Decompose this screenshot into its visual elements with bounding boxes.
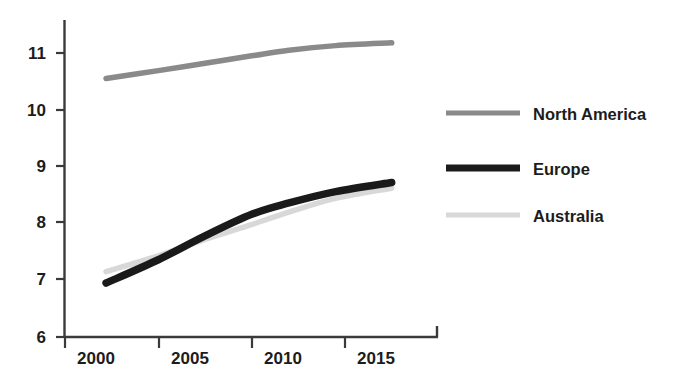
legend-label: Australia bbox=[533, 207, 604, 225]
x-tick-label: 2015 bbox=[357, 349, 395, 368]
y-tick-label: 6 bbox=[37, 328, 46, 347]
legend-item-australia[interactable]: Australia bbox=[446, 207, 604, 225]
axis-group bbox=[65, 20, 439, 337]
x-tick-label: 2005 bbox=[171, 349, 209, 368]
y-tick-labels: 11 10 9 8 7 6 bbox=[27, 44, 46, 347]
chart-canvas: 11 10 9 8 7 6 2000 2005 2010 2015 bbox=[0, 0, 691, 392]
legend: North America Europe Australia bbox=[446, 105, 647, 225]
series-line-australia bbox=[106, 188, 392, 272]
legend-label: Europe bbox=[533, 160, 590, 178]
y-tick-label: 8 bbox=[37, 213, 46, 232]
legend-item-north-america[interactable]: North America bbox=[446, 105, 647, 123]
line-chart: 11 10 9 8 7 6 2000 2005 2010 2015 bbox=[0, 0, 691, 392]
x-tick-label: 2010 bbox=[264, 349, 302, 368]
series-line-north-america bbox=[106, 43, 392, 79]
x-tick-label: 2000 bbox=[77, 349, 115, 368]
legend-label: North America bbox=[533, 105, 647, 123]
legend-item-europe[interactable]: Europe bbox=[446, 160, 590, 178]
series-group bbox=[106, 43, 392, 283]
y-tick-marks bbox=[56, 53, 64, 337]
x-tick-marks bbox=[65, 337, 345, 348]
y-tick-label: 11 bbox=[28, 44, 46, 63]
y-tick-label: 7 bbox=[37, 270, 46, 289]
y-tick-label: 9 bbox=[37, 157, 46, 176]
x-tick-labels: 2000 2005 2010 2015 bbox=[77, 349, 395, 368]
y-tick-label: 10 bbox=[27, 101, 46, 120]
